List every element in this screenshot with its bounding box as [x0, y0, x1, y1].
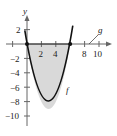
shaded-region: [27, 44, 70, 109]
y-tick-label-neg4: −4: [10, 68, 20, 78]
y-axis-label: y: [22, 6, 27, 16]
x-axis-arrow: [106, 42, 112, 47]
x-tick-label-2: 2: [39, 49, 44, 59]
x-tick-label-8: 8: [82, 49, 87, 59]
y-tick-label-neg6: −6: [10, 83, 20, 93]
intersection-point-six: [68, 42, 72, 46]
intersection-point-origin: [25, 42, 29, 46]
y-tick-label-2: 2: [16, 25, 21, 35]
x-tick-label-4: 4: [53, 49, 58, 59]
x-tick-label-10: 10: [93, 49, 103, 59]
g-leader: [89, 35, 98, 44]
curve-f-label: f: [66, 85, 70, 95]
y-tick-label-neg10: −10: [5, 111, 20, 121]
chart-svg: y 2 4 8 10 2 −2 −4 −6 −8 −10 f g: [0, 0, 117, 136]
y-tick-label-neg2: −2: [10, 54, 20, 64]
line-g-label: g: [98, 25, 103, 35]
chart-container: y 2 4 8 10 2 −2 −4 −6 −8 −10 f g: [0, 0, 117, 136]
y-tick-label-neg8: −8: [10, 97, 20, 107]
